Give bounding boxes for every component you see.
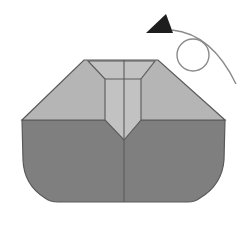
origami-diagram (0, 0, 248, 232)
